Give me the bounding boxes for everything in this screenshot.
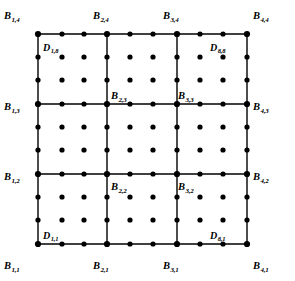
label-base: B: [163, 10, 170, 21]
control-point-node: [104, 241, 110, 247]
label-subscript: 1,8: [51, 47, 59, 54]
control-point-node: [35, 241, 41, 247]
label-base: B: [178, 181, 185, 192]
label-d-1-8: D1,8: [43, 38, 58, 54]
label-base: D: [210, 230, 217, 241]
control-point-node: [244, 31, 250, 37]
label-b-1-2: B1,2: [4, 167, 19, 183]
data-point-dot: [81, 147, 86, 152]
label-d-8-8: D8,8: [210, 38, 225, 54]
data-point-dot: [150, 54, 155, 59]
data-point-dot: [35, 194, 40, 199]
data-point-dot: [220, 101, 225, 106]
label-base: D: [43, 42, 50, 53]
data-point-dot: [244, 147, 249, 152]
data-point-dot: [59, 171, 64, 176]
label-subscript: 2,4: [101, 16, 109, 24]
label-b-1-1: B1,1: [4, 256, 19, 272]
label-base: D: [210, 42, 217, 53]
data-point-dot: [81, 124, 86, 129]
label-b-3-3: B3,3: [178, 86, 193, 102]
data-point-dot: [59, 241, 64, 246]
label-subscript: 8,1: [218, 235, 226, 242]
label-b-2-4: B2,4: [93, 6, 108, 22]
data-point-dot: [104, 147, 109, 152]
label-base: B: [253, 171, 260, 182]
data-point-dot: [197, 241, 202, 246]
data-point-dot: [35, 54, 40, 59]
data-point-dot: [197, 147, 202, 152]
data-point-dot: [35, 147, 40, 152]
data-point-dot: [59, 54, 64, 59]
data-point-dot: [59, 217, 64, 222]
label-b-2-2: B2,2: [111, 177, 126, 193]
label-subscript: 4,2: [261, 177, 269, 185]
data-point-dot: [244, 194, 249, 199]
data-point-dot: [244, 217, 249, 222]
data-point-dot: [150, 171, 155, 176]
label-b-4-3: B4,3: [253, 97, 268, 113]
data-point-dot: [174, 54, 179, 59]
data-point-dot: [127, 124, 132, 129]
control-point-node: [35, 31, 41, 37]
data-point-dot: [81, 217, 86, 222]
label-subscript: 2,1: [101, 266, 109, 274]
data-point-dot: [244, 77, 249, 82]
data-point-dot: [59, 194, 64, 199]
data-point-dot: [127, 171, 132, 176]
label-subscript: 2,2: [119, 187, 127, 195]
label-b-2-1: B2,1: [93, 256, 108, 272]
data-point-dot: [59, 31, 64, 36]
data-point-dot: [35, 124, 40, 129]
data-point-dot: [220, 171, 225, 176]
label-base: D: [43, 230, 50, 241]
data-point-dot: [104, 54, 109, 59]
data-point-dot: [220, 241, 225, 246]
label-subscript: 3,1: [171, 266, 179, 274]
data-point-dot: [127, 54, 132, 59]
data-point-dot: [150, 217, 155, 222]
data-point-dot: [197, 124, 202, 129]
data-point-dot: [150, 241, 155, 246]
data-point-dot: [174, 194, 179, 199]
label-base: B: [178, 90, 185, 101]
data-point-dot: [150, 194, 155, 199]
data-point-dot: [174, 124, 179, 129]
data-point-dot: [197, 31, 202, 36]
data-point-dot: [150, 77, 155, 82]
label-b-1-3: B1,3: [4, 97, 19, 113]
data-point-dot: [81, 77, 86, 82]
label-subscript: 1,1: [12, 266, 20, 274]
data-point-dot: [104, 194, 109, 199]
data-point-dot: [35, 77, 40, 82]
control-point-node: [104, 101, 110, 107]
control-point-node: [104, 171, 110, 177]
label-base: B: [4, 101, 11, 112]
data-point-dot: [220, 124, 225, 129]
data-point-dot: [104, 217, 109, 222]
control-point-node: [244, 171, 250, 177]
label-subscript: 3,2: [186, 187, 194, 195]
label-b-3-4: B3,4: [163, 6, 178, 22]
label-base: B: [111, 181, 118, 192]
data-point-dot: [197, 171, 202, 176]
label-base: B: [111, 90, 118, 101]
data-point-dot: [59, 147, 64, 152]
data-point-dot: [81, 241, 86, 246]
label-base: B: [93, 10, 100, 21]
control-point-node: [244, 241, 250, 247]
data-point-dot: [104, 77, 109, 82]
data-point-dot: [220, 31, 225, 36]
label-subscript: 4,1: [261, 266, 269, 274]
data-point-dot: [197, 194, 202, 199]
label-subscript: 4,3: [261, 107, 269, 115]
data-point-dot: [81, 101, 86, 106]
label-b-2-3: B2,3: [111, 86, 126, 102]
grid-lines: [38, 34, 247, 244]
label-subscript: 1,4: [12, 16, 20, 24]
lattice-figure: B1,4B2,4B3,4B4,4B1,3B2,3B3,3B4,3B1,2B2,2…: [0, 0, 295, 281]
label-b-3-2: B3,2: [178, 177, 193, 193]
label-subscript: 2,3: [119, 96, 127, 104]
data-point-dot: [127, 241, 132, 246]
data-point-dot: [150, 124, 155, 129]
